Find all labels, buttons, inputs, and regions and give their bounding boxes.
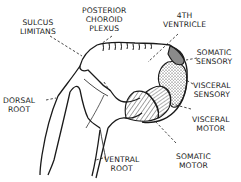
brainstem-diagram: SULCUS LIMITANS POSTERIOR CHOROID PLEXUS… bbox=[0, 0, 241, 182]
label-posterior-choroid-plexus: POSTERIOR CHOROID PLEXUS bbox=[82, 6, 126, 33]
label-ventral-root: VENTRAL ROOT bbox=[104, 155, 139, 173]
label-somatic-sensory: SOMATIC SENSORY bbox=[196, 48, 232, 66]
label-visceral-motor: VISCERAL MOTOR bbox=[192, 115, 230, 133]
label-sulcus-limitans: SULCUS LIMITANS bbox=[20, 18, 56, 36]
label-fourth-ventricle: 4TH VENTRICLE bbox=[163, 11, 206, 29]
label-dorsal-root: DORSAL ROOT bbox=[3, 96, 35, 114]
label-visceral-sensory: VISCERAL SENSORY bbox=[193, 81, 231, 99]
label-somatic-motor: SOMATIC MOTOR bbox=[176, 152, 211, 170]
